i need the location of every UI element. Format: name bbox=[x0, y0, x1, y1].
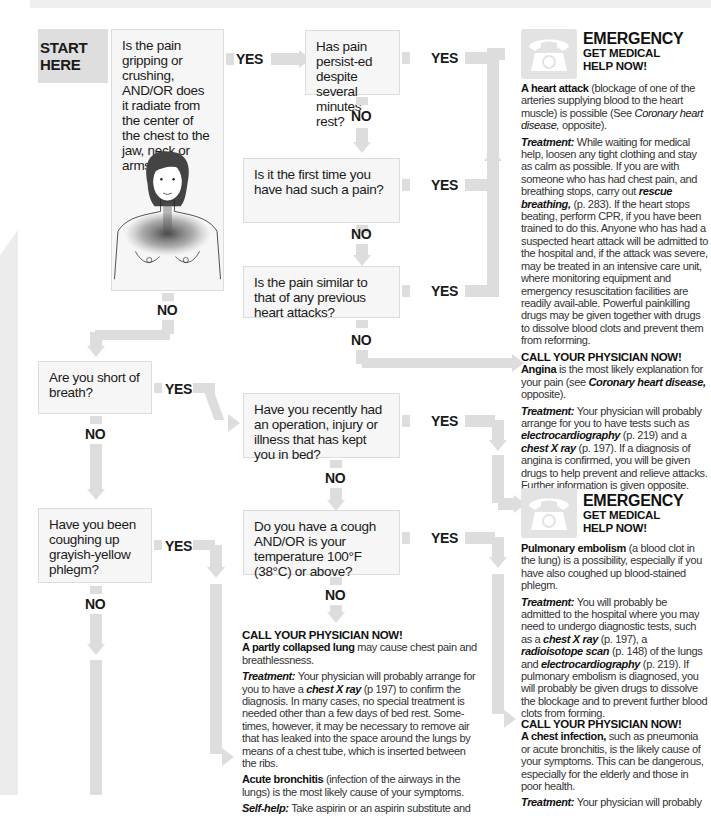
collapsed-lung-title: A partly collapsed lung bbox=[242, 641, 355, 653]
arrow-q6-connector-bend bbox=[498, 498, 514, 510]
question-box-q6: Have you recently had an operation, inju… bbox=[243, 393, 400, 458]
question-box-q7: Have you been coughing up grayish-yellow… bbox=[38, 508, 152, 583]
arrow-q8-yes-down bbox=[492, 537, 504, 557]
arrow-q4-yes-shaft bbox=[465, 285, 499, 297]
arrow-q7-yes bbox=[154, 540, 162, 550]
start-label-line2: HERE bbox=[40, 56, 87, 73]
arrow-head bbox=[87, 644, 105, 655]
arrow-q5-no bbox=[90, 416, 102, 424]
start-label-line1: START bbox=[40, 39, 87, 56]
yes-label: YES bbox=[165, 381, 192, 397]
chest-infection-panel: CALL YOUR PHYSICIAN NOW! A chest infecti… bbox=[521, 718, 709, 813]
heart-attack-panel: A heart attack (blockage of one of the a… bbox=[521, 82, 709, 351]
arrow-q7-no-shaft bbox=[90, 614, 102, 644]
collapsed-lung-treatment-2: (p 197) to confirm the diagnosis. In man… bbox=[242, 683, 470, 769]
chest-infection-treatment: Your physician will probably bbox=[574, 796, 701, 808]
arrow-q3-yes bbox=[402, 179, 410, 191]
bronchitis-title: Acute bronchitis bbox=[242, 773, 323, 785]
arrow-q7-yes-down bbox=[210, 545, 222, 567]
question-text-q5: Are you short of breath? bbox=[49, 370, 141, 400]
arrow-q4-yes bbox=[402, 285, 410, 297]
emergency-subtitle-2: HELP NOW! bbox=[583, 60, 683, 73]
yes-label: YES bbox=[431, 530, 458, 546]
angina-panel: CALL YOUR PHYSICIAN NOW! Angina is the m… bbox=[521, 351, 709, 495]
arrow-q3-yes-shaft bbox=[465, 179, 487, 191]
connector-top bbox=[487, 48, 505, 60]
yes-label: YES bbox=[431, 413, 458, 429]
arrow-head bbox=[353, 255, 371, 266]
treatment-label: Treatment: bbox=[521, 136, 574, 148]
arrow-head bbox=[87, 346, 105, 357]
yes-label: YES bbox=[165, 538, 192, 554]
treatment-label: Treatment: bbox=[242, 670, 295, 682]
no-label: NO bbox=[351, 108, 371, 124]
arrow-q7-no-continue bbox=[90, 660, 102, 795]
bronchitis-selfhelp: Take aspirin or an aspirin substitute an… bbox=[289, 802, 471, 814]
no-label: NO bbox=[157, 302, 177, 318]
yes-label: YES bbox=[431, 177, 458, 193]
question-text-q7: Have you been coughing up grayish-yellow… bbox=[49, 517, 141, 577]
emergency-subtitle-2: HELP NOW! bbox=[583, 522, 683, 535]
question-box-q5: Are you short of breath? bbox=[38, 361, 152, 414]
arrow-q8-yes bbox=[402, 532, 410, 544]
arrow-q8-connector bbox=[492, 574, 504, 714]
selfhelp-label: Self-help: bbox=[242, 802, 289, 814]
call-physician-heading: CALL YOUR PHYSICIAN NOW! bbox=[521, 718, 709, 730]
arrow-head bbox=[327, 612, 345, 623]
collapsed-lung-panel: CALL YOUR PHYSICIAN NOW! A partly collap… bbox=[242, 629, 478, 818]
arrow-head bbox=[207, 567, 225, 578]
angina-text-2: opposite). bbox=[521, 388, 566, 400]
no-label: NO bbox=[325, 470, 345, 486]
arrow-q7-no bbox=[90, 586, 102, 594]
arrow-q5-yes-diagonal bbox=[202, 385, 225, 420]
no-label: NO bbox=[85, 596, 105, 612]
question-box-q4: Is the pain similar to that of any previ… bbox=[243, 266, 400, 318]
arrow-head bbox=[504, 710, 516, 728]
arrow-q5-yes bbox=[154, 383, 162, 393]
question-text-q3: Is it the first time you have had such a… bbox=[254, 167, 389, 197]
arrow-q6-yes bbox=[402, 415, 410, 427]
angina-ref: Coronary heart disease, bbox=[589, 376, 706, 388]
pe-treatment-2: (p. 197), a bbox=[598, 633, 647, 645]
no-label: NO bbox=[351, 226, 371, 242]
arrow-q8-yes-shaft bbox=[465, 532, 495, 544]
heart-attack-title: A heart attack bbox=[521, 82, 588, 94]
emergency-heading-1: EMERGENCY GET MEDICAL HELP NOW! bbox=[583, 31, 683, 72]
emergency-title: EMERGENCY bbox=[583, 493, 683, 509]
emergency-title: EMERGENCY bbox=[583, 31, 683, 47]
question-box-q3: Is it the first time you have had such a… bbox=[243, 158, 400, 223]
angina-ref-xray: chest X ray bbox=[521, 442, 576, 454]
start-label: START HERE bbox=[40, 39, 87, 73]
yes-label: YES bbox=[431, 283, 458, 299]
arrow-head bbox=[489, 557, 507, 568]
pulmonary-embolism-panel: Pulmonary embolism (a blood clot in the … bbox=[521, 542, 709, 724]
arrow-head bbox=[489, 440, 507, 451]
arrow-q1-no-horizontal bbox=[95, 330, 170, 340]
treatment-label: Treatment: bbox=[521, 405, 574, 417]
pe-title: Pulmonary embolism bbox=[521, 542, 626, 554]
no-label: NO bbox=[351, 332, 371, 348]
arrow-q4-no-horizontal bbox=[362, 358, 512, 368]
telephone-icon bbox=[521, 29, 577, 79]
call-physician-heading: CALL YOUR PHYSICIAN NOW! bbox=[521, 351, 709, 363]
arrow-q2-yes bbox=[402, 52, 410, 64]
treatment-label: Treatment: bbox=[521, 596, 574, 608]
no-label: NO bbox=[325, 587, 345, 603]
arrow-q2-no-shaft bbox=[356, 128, 368, 142]
call-physician-heading: CALL YOUR PHYSICIAN NOW! bbox=[242, 629, 478, 641]
arrow-head bbox=[222, 748, 234, 766]
top-border-strip bbox=[30, 0, 711, 8]
treatment-label: Treatment: bbox=[521, 796, 574, 808]
emergency-subtitle-1: GET MEDICAL bbox=[583, 509, 683, 522]
arrow-q6-no bbox=[330, 460, 342, 468]
yes-label: YES bbox=[431, 50, 458, 66]
angina-treatment-2: (p. 219) and a bbox=[620, 429, 686, 441]
arrow-head bbox=[87, 489, 105, 500]
heart-attack-text-2: opposite). bbox=[559, 119, 607, 131]
arrow-q1-yes-shaft bbox=[271, 53, 299, 65]
arrow-q6-connector bbox=[492, 455, 504, 503]
arrow-q7-connector bbox=[210, 584, 222, 754]
arrow-q1-no-down bbox=[90, 332, 102, 346]
arrow-q1-yes bbox=[226, 53, 234, 65]
no-label: NO bbox=[85, 426, 105, 442]
